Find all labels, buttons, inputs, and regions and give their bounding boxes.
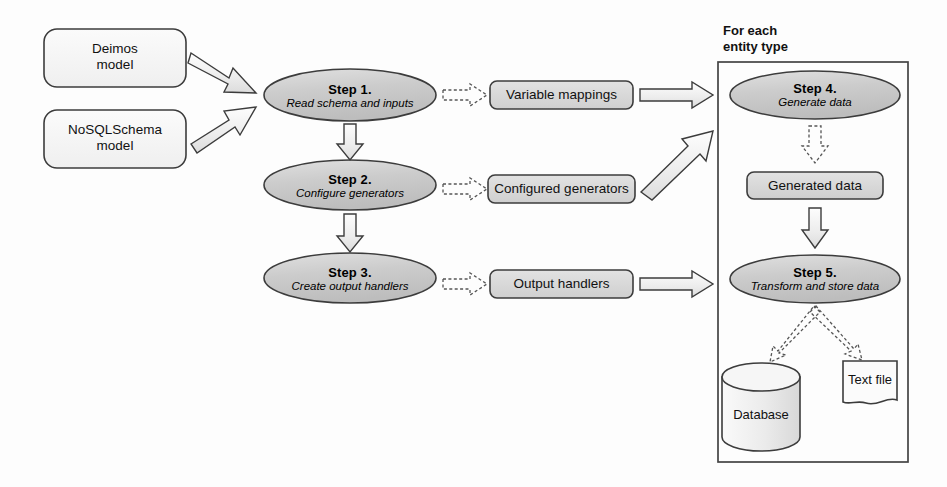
arrow-nosqlschema-to-step1 [191, 107, 256, 153]
step1-subtitle: Read schema and inputs [286, 97, 413, 109]
step-label-step1: Step 1. Read schema and inputs [264, 72, 436, 118]
step3-subtitle: Create output handlers [292, 280, 409, 292]
step-label-step4: Step 4. Generate data [730, 73, 900, 116]
step4-title: Step 4. [793, 81, 836, 96]
step3-title: Step 3. [328, 265, 371, 280]
arrow-configured-generators-to-step4 [641, 131, 713, 200]
step4-subtitle: Generate data [778, 96, 852, 108]
dashed-arrow-step4-to-generated-data [802, 126, 828, 163]
diagram-canvas: Deimos model NoSQLSchema model Step 1. R… [0, 0, 947, 487]
dashed-arrow-step1-to-variable-mappings [443, 84, 487, 106]
step-label-step5: Step 5. Transform and store data [730, 257, 900, 300]
step2-subtitle: Configure generators [296, 187, 404, 199]
artifact-box-configured-generators [488, 175, 635, 203]
artifact-box-generated-data [747, 172, 883, 199]
step5-subtitle: Transform and store data [751, 280, 879, 292]
arrow-output-handlers-to-step5 [640, 271, 713, 297]
arrow-step1-to-step2 [337, 124, 363, 160]
shape-text-file-document [843, 361, 897, 404]
input-box-deimos-model [44, 29, 186, 87]
arrow-deimos-to-step1 [188, 53, 256, 93]
arrow-variable-mappings-to-step4 [640, 82, 713, 108]
artifact-box-output-handlers [490, 270, 633, 298]
dashed-arrow-step2-to-configured-generators [443, 178, 487, 200]
arrow-step2-to-step3 [337, 214, 363, 252]
input-box-nosqlschema-model [44, 110, 186, 168]
step5-title: Step 5. [793, 265, 836, 280]
arrow-generated-data-to-step5 [802, 208, 828, 248]
artifact-box-variable-mappings [490, 81, 633, 109]
step-label-step3: Step 3. Create output handlers [264, 256, 436, 300]
step-label-step2: Step 2. Configure generators [264, 163, 436, 207]
dashed-arrow-step3-to-output-handlers [443, 273, 487, 295]
shape-database-cylinder [722, 363, 800, 451]
step1-title: Step 1. [328, 82, 371, 97]
step2-title: Step 2. [328, 172, 371, 187]
